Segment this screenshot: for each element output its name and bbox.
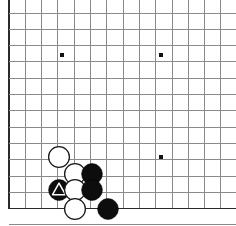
black-stone-disc[interactable]: [98, 199, 119, 220]
go-board[interactable]: [0, 0, 236, 226]
star-point-right-icon: [159, 53, 163, 57]
white-stone-1[interactable]: [49, 147, 70, 168]
white-stone-disc[interactable]: [65, 199, 86, 220]
star-point-left-icon: [60, 53, 64, 57]
black-stone-2[interactable]: [82, 180, 103, 201]
white-stone-4[interactable]: [65, 199, 86, 220]
go-board-container: [0, 0, 236, 226]
star-point-lower-right-icon: [159, 155, 163, 159]
black-stone-disc[interactable]: [82, 180, 103, 201]
white-stone-disc[interactable]: [49, 147, 70, 168]
board-grid: [9, 0, 236, 225]
black-stone-3[interactable]: [98, 199, 119, 220]
